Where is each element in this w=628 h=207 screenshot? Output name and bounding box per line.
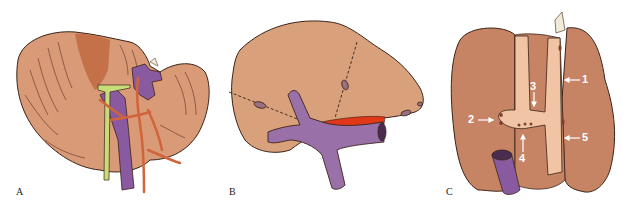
callout-number-1: 1	[582, 73, 588, 85]
panel-label-c: C	[446, 186, 453, 197]
panel-c-illustration	[451, 12, 614, 194]
panel-label-a: A	[16, 186, 23, 197]
illustration-canvas	[0, 0, 628, 207]
callout-number-3: 3	[530, 80, 536, 92]
callout-number-4: 4	[519, 152, 525, 164]
callout-number-5: 5	[582, 131, 588, 143]
callout-number-2: 2	[468, 113, 474, 125]
panel-a-illustration	[17, 32, 209, 192]
panel-label-b: B	[229, 186, 236, 197]
liver-anatomy-figure: A B C 1 2 3 4 5	[0, 0, 628, 207]
panel-b-illustration	[229, 21, 423, 189]
